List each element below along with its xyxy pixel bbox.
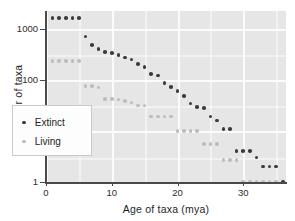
x-tick-mark: [112, 182, 113, 186]
data-point-living: [51, 59, 55, 63]
y-axis-line: [45, 11, 47, 183]
data-point-extinct: [110, 51, 114, 55]
gridline-vertical-minor: [210, 11, 212, 182]
data-point-extinct: [90, 43, 94, 47]
y-tick-label: 1: [0, 177, 38, 187]
data-point-living: [156, 115, 160, 119]
data-point-living: [222, 158, 226, 162]
data-point-extinct: [228, 127, 232, 131]
data-point-living: [202, 142, 206, 146]
gridline-horizontal: [46, 29, 286, 31]
data-point-living: [176, 129, 180, 133]
data-point-extinct: [130, 58, 134, 62]
legend-label-extinct: Extinct: [35, 118, 65, 128]
data-point-extinct: [241, 149, 245, 153]
data-point-living: [110, 97, 114, 101]
x-tick-label: 30: [228, 188, 258, 198]
y-tick-mark: [40, 182, 45, 183]
data-point-extinct: [97, 47, 101, 51]
data-point-extinct: [163, 81, 167, 85]
legend-label-living: Living: [35, 137, 61, 147]
data-point-living: [71, 59, 75, 63]
data-point-extinct: [77, 16, 81, 20]
y-tick-mark: [40, 29, 45, 30]
data-point-extinct: [235, 149, 239, 153]
legend-item-extinct[interactable]: Extinct: [13, 113, 91, 132]
data-point-extinct: [51, 16, 55, 20]
data-point-living: [117, 98, 121, 102]
data-point-extinct: [222, 127, 226, 131]
gridline-horizontal-minor: [46, 158, 286, 160]
y-tick-mark: [40, 80, 45, 81]
gridline-vertical: [178, 11, 180, 182]
data-point-living: [169, 115, 173, 119]
data-point-living: [163, 115, 167, 119]
chart-legend: Extinct Living: [12, 105, 92, 156]
data-point-living: [228, 158, 232, 162]
data-point-extinct: [176, 89, 180, 93]
gridline-vertical-minor: [79, 11, 81, 182]
x-tick-label: 20: [163, 188, 193, 198]
y-tick-label: 1000: [0, 24, 38, 34]
data-point-extinct: [84, 35, 88, 39]
data-point-living: [130, 101, 134, 105]
gridline-vertical: [243, 11, 245, 182]
survivorship-scatter-chart: 11010010000102030 Number of taxa Age of …: [0, 0, 295, 221]
data-point-living: [149, 115, 153, 119]
x-tick-label: 10: [97, 188, 127, 198]
data-point-extinct: [123, 56, 127, 60]
x-tick-label: 0: [31, 188, 61, 198]
gridline-horizontal: [46, 80, 286, 82]
legend-marker-living: [22, 140, 26, 144]
data-point-extinct: [189, 102, 193, 106]
x-tick-mark: [46, 182, 47, 186]
plot-area: [46, 11, 286, 182]
data-point-extinct: [182, 94, 186, 98]
data-point-living: [97, 86, 101, 90]
x-axis-title: Age of taxa (mya): [46, 203, 286, 215]
x-axis-line: [45, 182, 287, 184]
data-point-living: [77, 59, 81, 63]
x-tick-mark: [178, 182, 179, 186]
data-point-extinct: [248, 149, 252, 153]
data-point-living: [209, 142, 213, 146]
data-point-extinct: [149, 72, 153, 76]
data-point-extinct: [169, 85, 173, 89]
data-point-extinct: [268, 165, 272, 169]
data-point-living: [64, 59, 68, 63]
data-point-extinct: [103, 50, 107, 54]
data-point-living: [123, 99, 127, 103]
data-point-living: [57, 59, 61, 63]
gridline-vertical-minor: [145, 11, 147, 182]
data-point-extinct: [195, 105, 199, 109]
gridline-horizontal-minor: [46, 55, 286, 57]
data-point-extinct: [71, 16, 75, 20]
gridline-vertical-minor: [276, 11, 278, 182]
data-point-living: [90, 84, 94, 88]
data-point-living: [195, 129, 199, 133]
data-point-extinct: [202, 106, 206, 110]
data-point-extinct: [156, 74, 160, 78]
data-point-living: [103, 97, 107, 101]
data-point-extinct: [136, 62, 140, 66]
x-tick-mark: [243, 182, 244, 186]
data-point-extinct: [64, 16, 68, 20]
legend-marker-extinct: [22, 121, 26, 125]
data-point-living: [215, 142, 219, 146]
legend-item-living[interactable]: Living: [13, 132, 91, 151]
data-point-living: [84, 84, 88, 88]
data-point-living: [235, 158, 239, 162]
data-point-living: [182, 129, 186, 133]
data-point-extinct: [215, 119, 219, 123]
data-point-extinct: [57, 16, 61, 20]
data-point-extinct: [117, 53, 121, 57]
data-point-extinct: [261, 165, 265, 169]
